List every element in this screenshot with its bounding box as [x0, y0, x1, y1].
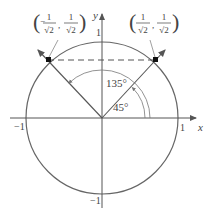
arc-45	[132, 88, 145, 118]
arc-135b	[69, 70, 102, 83]
angle-label-45: 45°	[113, 101, 128, 113]
tick-x-neg: −1	[14, 121, 25, 132]
svg-text:√2: √2	[159, 25, 168, 35]
point-45-marker	[153, 57, 158, 62]
svg-text:): )	[172, 9, 179, 34]
unit-circle-diagram: 135° 45° x y 1 −1 1 −1 ( − 1 √2 , 1 √2 )…	[0, 0, 214, 218]
tick-x-pos: 1	[180, 122, 185, 133]
svg-text:√2: √2	[66, 25, 75, 35]
svg-text:(: (	[129, 9, 136, 34]
tick-y-neg: −1	[90, 195, 101, 206]
y-axis-label: y	[92, 9, 98, 21]
svg-text:1: 1	[69, 12, 74, 22]
angle-label-135: 135°	[106, 77, 127, 89]
point-label-135: ( − 1 √2 , 1 √2 )	[33, 9, 86, 35]
svg-text:,: ,	[58, 20, 60, 30]
leader-45	[150, 40, 155, 57]
svg-text:√2: √2	[44, 25, 53, 35]
point-135-marker	[46, 57, 51, 62]
tick-y-pos: 1	[96, 27, 101, 38]
svg-text:,: ,	[152, 20, 154, 30]
svg-text:1: 1	[141, 12, 146, 22]
leader-135	[49, 40, 58, 57]
svg-text:1: 1	[162, 12, 167, 22]
x-axis-label: x	[197, 121, 203, 133]
svg-text:): )	[79, 9, 86, 34]
svg-text:√2: √2	[138, 25, 147, 35]
point-label-45-body: ( 1 √2 , 1 √2 )	[129, 9, 179, 35]
svg-text:1: 1	[47, 12, 52, 22]
